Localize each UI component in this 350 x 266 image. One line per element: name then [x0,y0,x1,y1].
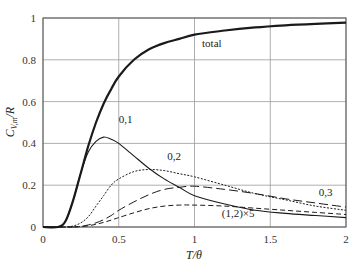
y-axis-label: CV,m/R [3,106,19,137]
x-axis-label: T/θ [186,248,202,262]
chart: 00.511.52 00.20.40.60.81 total0,10,20,3(… [0,0,350,266]
y-tick-label: 0.4 [22,137,36,149]
curve-label: (1,2)×5 [222,207,255,220]
x-tick-label: 2 [343,233,349,245]
x-tick-label: 0 [40,233,46,245]
y-tick-label: 1 [31,12,37,24]
curve-labels: total0,10,20,3(1,2)×5 [119,37,333,219]
curve-label: 0,3 [319,186,333,198]
x-axis-ticks: 00.511.52 [40,233,349,245]
y-tick-label: 0.6 [22,96,36,108]
curve-label: 0,1 [119,113,133,125]
x-tick-label: 0.5 [112,233,126,245]
y-tick-label: 0.8 [22,54,36,66]
y-axis-ticks: 00.20.40.60.81 [22,12,36,233]
curve-label: 0,2 [167,150,181,162]
x-tick-label: 1 [192,233,198,245]
x-tick-label: 1.5 [263,233,277,245]
y-tick-label: 0.2 [22,179,36,191]
curve-label: total [202,37,222,49]
y-tick-label: 0 [31,221,37,233]
